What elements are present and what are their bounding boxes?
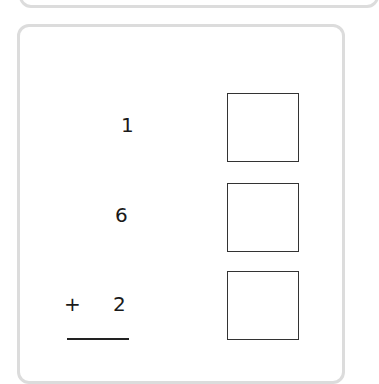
- answer-box-3[interactable]: [227, 271, 299, 340]
- addend-3: 2: [113, 294, 126, 314]
- addend-2: 6: [115, 205, 128, 225]
- addend-1: 1: [121, 115, 134, 135]
- sum-line: [67, 338, 129, 340]
- answer-box-1[interactable]: [227, 93, 299, 162]
- answer-box-2[interactable]: [227, 183, 299, 252]
- plus-operator: +: [64, 294, 81, 314]
- previous-problem-card: [19, 0, 379, 8]
